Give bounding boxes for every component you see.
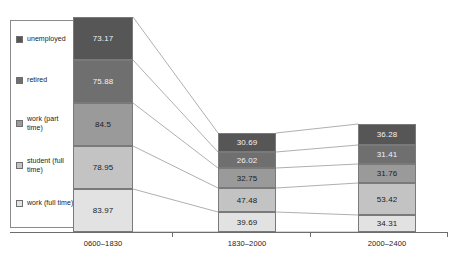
bar-value-label: 32.75 xyxy=(237,174,258,183)
bar-segment-unemployed[interactable]: 30.69 xyxy=(218,133,276,152)
bar-value-label: 83.97 xyxy=(93,206,114,215)
x-axis-tick xyxy=(447,232,448,237)
x-axis-tick xyxy=(172,232,173,237)
bar-segment-retired[interactable]: 31.41 xyxy=(358,145,416,164)
bar-segment-unemployed[interactable]: 73.17 xyxy=(73,17,133,60)
bar-value-label: 75.88 xyxy=(93,77,114,86)
bar-value-label: 78.95 xyxy=(93,163,114,172)
bar-segment-student-full-time[interactable]: 78.95 xyxy=(73,146,133,189)
bar-segment-student-full-time[interactable]: 53.42 xyxy=(358,183,416,215)
plot-area: 73.17 75.88 84.5 78.95 83.97 30.69 26.02 xyxy=(0,0,461,258)
bar-segment-unemployed[interactable]: 36.28 xyxy=(358,124,416,145)
bar-segment-work-part-time[interactable]: 84.5 xyxy=(73,103,133,146)
bar-value-label: 36.28 xyxy=(377,130,398,139)
x-axis-tick-label: 1830–2000 xyxy=(207,239,287,248)
bar-segment-work-part-time[interactable]: 32.75 xyxy=(218,168,276,188)
bar-column-1830-2000[interactable]: 30.69 26.02 32.75 47.48 39.69 xyxy=(218,133,276,232)
bar-value-label: 53.42 xyxy=(377,195,398,204)
bar-value-label: 73.17 xyxy=(93,34,114,43)
x-axis-line xyxy=(10,232,448,233)
bar-value-label: 31.76 xyxy=(377,169,398,178)
bar-column-2000-2400[interactable]: 36.28 31.41 31.76 53.42 34.31 xyxy=(358,124,416,232)
bar-segment-work-full-time[interactable]: 34.31 xyxy=(358,215,416,232)
bar-column-0600-1830[interactable]: 73.17 75.88 84.5 78.95 83.97 xyxy=(73,17,133,232)
bar-segment-work-full-time[interactable]: 83.97 xyxy=(73,189,133,232)
bar-value-label: 30.69 xyxy=(237,138,258,147)
stacked-bar-chart: unemployed retired work (part time) stud… xyxy=(0,0,461,258)
bar-segment-retired[interactable]: 75.88 xyxy=(73,60,133,103)
x-axis-tick-label: 2000–2400 xyxy=(347,239,427,248)
bar-value-label: 34.31 xyxy=(377,219,398,228)
bar-value-label: 39.69 xyxy=(237,218,258,227)
bar-value-label: 84.5 xyxy=(95,120,111,129)
bar-segment-work-full-time[interactable]: 39.69 xyxy=(218,212,276,232)
x-axis-tick-label: 0600–1830 xyxy=(63,239,143,248)
bar-segment-work-part-time[interactable]: 31.76 xyxy=(358,164,416,183)
x-axis-tick xyxy=(310,232,311,237)
bar-value-label: 31.41 xyxy=(377,150,398,159)
bar-value-label: 47.48 xyxy=(237,196,258,205)
bar-value-label: 26.02 xyxy=(237,156,258,165)
bar-segment-student-full-time[interactable]: 47.48 xyxy=(218,188,276,212)
bar-segment-retired[interactable]: 26.02 xyxy=(218,152,276,168)
